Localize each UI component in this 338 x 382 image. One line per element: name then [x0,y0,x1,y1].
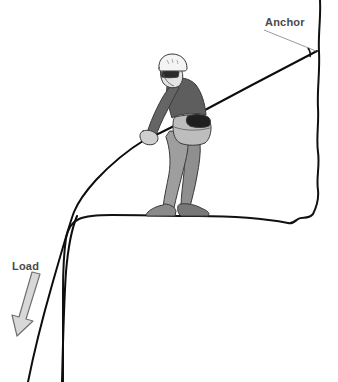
illustration-canvas: Anchor Load [0,0,338,382]
climber-pack-dark-patch [186,115,210,128]
ledge-ground-line [63,215,288,382]
anchor-label: Anchor [265,16,305,28]
load-arrow-icon [12,272,40,336]
load-annotation: Load [12,260,40,336]
climber-figure [140,54,211,216]
cliff-wall-right [288,0,320,223]
climber-front-boot [146,204,176,216]
rope-anchor-diagram: Anchor Load [0,0,338,382]
load-rope [28,139,146,382]
anchor-annotation: Anchor [264,16,316,57]
load-label: Load [12,260,39,272]
anchor-leader-line [264,30,316,51]
climber-rear-boot [178,204,209,216]
